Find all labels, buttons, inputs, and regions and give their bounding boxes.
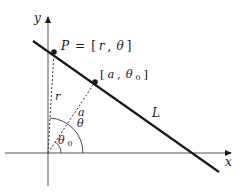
polar-line-diagram: y x P = [ r , θ ] [ a , θ 0 ] L r a θ θ …	[0, 0, 244, 193]
foot-point-label: [ a , θ 0 ]	[100, 67, 148, 82]
point-foot	[92, 79, 98, 85]
point-P-label: P = [ r , θ ]	[60, 39, 131, 53]
y-axis-label: y	[33, 11, 41, 25]
theta0-angle-label: θ 0	[58, 134, 72, 148]
theta-angle-label: θ	[77, 117, 84, 130]
x-axis-label: x	[225, 155, 232, 169]
point-P	[51, 49, 57, 55]
line-L-label: L	[151, 106, 160, 120]
radius-r-segment	[48, 52, 54, 153]
r-segment-label: r	[55, 90, 61, 103]
